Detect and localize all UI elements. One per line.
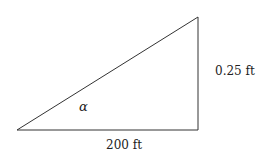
right-triangle [17, 17, 198, 130]
base-label: 200 ft [106, 138, 142, 152]
height-label: 0.25 ft [215, 64, 255, 78]
triangle-figure [0, 0, 267, 156]
angle-label: α [79, 99, 88, 114]
